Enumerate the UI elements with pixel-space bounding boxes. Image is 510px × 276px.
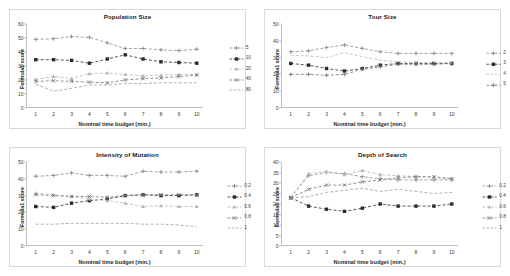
legend-item[interactable]: 1 [227,225,251,231]
legend-label: 0.8 [244,215,251,220]
x-axis-label: Nominal time budget (min.) [281,121,458,127]
x-tick-label: 4 [88,249,91,255]
x-tick-label: 8 [160,111,163,117]
legend-label: 1 [244,226,247,231]
x-tick-label: 7 [397,111,400,117]
series-line [36,223,197,226]
y-tick-label: 30 [273,55,279,61]
legend-label: 0.4 [244,194,251,199]
series-line [36,73,197,79]
x-tick-label: 7 [397,249,400,255]
x-tick-label: 4 [343,249,346,255]
y-tick-label: 40 [18,176,24,182]
chart-title: Tour Size [255,13,510,20]
figure-grid: Population Size Formula1 score 010203040… [0,0,510,276]
legend-item[interactable]: 20 [229,66,251,72]
series-line [36,83,197,91]
legend-item[interactable]: 80 [229,87,251,93]
plot-area: 0510152025303540 12345678910 [281,162,458,246]
x-tick-label: 2 [307,111,310,117]
series-layer [281,24,458,108]
x-tick-label: 6 [124,249,127,255]
x-tick-label: 6 [124,111,127,117]
legend-item[interactable]: 0.2 [227,183,251,189]
legend-label: 4 [503,72,506,77]
legend-item[interactable]: 4 [486,71,506,77]
legend-label: 5 [246,46,249,51]
x-tick-label: 6 [379,111,382,117]
y-tick-label: 30 [273,180,279,186]
legend-item[interactable]: 0.8 [482,215,506,221]
legend-label: 5 [503,82,506,87]
chart-panel-intensity-of-mutation: Intensity of Mutation Formula1 score 010… [0,138,255,276]
y-tick-label: 10 [273,222,279,228]
x-tick-label: 3 [70,111,73,117]
legend-label: 0.4 [499,194,506,199]
x-axis-label: Nominal time budget (min.) [281,259,458,265]
x-tick-label: 7 [142,249,145,255]
legend-item[interactable]: 0.8 [227,215,251,221]
legend-label: 0.6 [244,205,251,210]
legend-label: 0.2 [244,184,251,189]
legend-label: 2 [503,51,506,56]
x-axis-label: Nominal time budget (min.) [26,121,203,127]
y-tick-label: 60 [18,21,24,27]
chart-legend: 510204080 [229,45,251,93]
x-tick-label: 9 [178,249,181,255]
legend-item[interactable]: 40 [229,77,251,83]
x-tick-label: 3 [70,249,73,255]
x-tick-label: 1 [289,249,292,255]
y-tick-label: 25 [273,191,279,197]
x-tick-label: 1 [289,111,292,117]
y-tick-label: 15 [273,212,279,218]
x-tick-label: 4 [88,111,91,117]
legend-item[interactable]: 10 [229,56,251,62]
legend-item[interactable]: 0.4 [227,194,251,200]
legend-item[interactable]: 0.4 [482,194,506,200]
legend-label: 80 [246,88,251,93]
chart-title: Depth of Search [255,151,510,158]
series-line [36,37,197,51]
x-tick-label: 3 [325,249,328,255]
series-line [291,170,452,197]
y-tick-label: 50 [18,159,24,165]
legend-item[interactable]: 1 [482,225,506,231]
series-line [291,177,452,198]
legend-item[interactable]: 0.6 [227,204,251,210]
legend-item[interactable]: 5 [229,45,251,51]
x-tick-label: 10 [194,249,200,255]
x-tick-label: 6 [379,249,382,255]
series-line [291,188,452,197]
x-tick-label: 5 [106,249,109,255]
series-layer [26,162,203,246]
legend-item[interactable]: 3 [486,61,506,67]
x-tick-label: 7 [142,111,145,117]
y-tick-label: 50 [18,35,24,41]
series-line [291,45,452,53]
series-line [36,171,197,176]
x-tick-label: 5 [106,111,109,117]
x-tick-label: 8 [415,111,418,117]
series-layer [281,162,458,246]
legend-label: 0.8 [499,215,506,220]
x-tick-label: 9 [178,111,181,117]
y-tick-label: 20 [18,209,24,215]
legend-item[interactable]: 0.2 [482,183,506,189]
x-tick-label: 8 [160,249,163,255]
legend-item[interactable]: 5 [486,82,506,88]
plot-area: 01020304050 12345678910 [26,162,203,246]
series-line [291,198,452,212]
x-tick-label: 10 [194,111,200,117]
chart-panel-population-size: Population Size Formula1 score 010203040… [0,0,255,138]
chart-legend: 0.20.40.60.81 [227,183,251,231]
y-tick-label: 40 [18,49,24,55]
legend-label: 40 [246,77,251,82]
legend-item[interactable]: 0.6 [482,204,506,210]
chart-title: Population Size [0,13,255,20]
chart-title: Intensity of Mutation [0,151,255,158]
x-tick-label: 2 [307,249,310,255]
legend-item[interactable]: 2 [486,50,506,56]
y-tick-label: 10 [18,226,24,232]
series-line [291,53,452,63]
series-line [291,63,452,71]
